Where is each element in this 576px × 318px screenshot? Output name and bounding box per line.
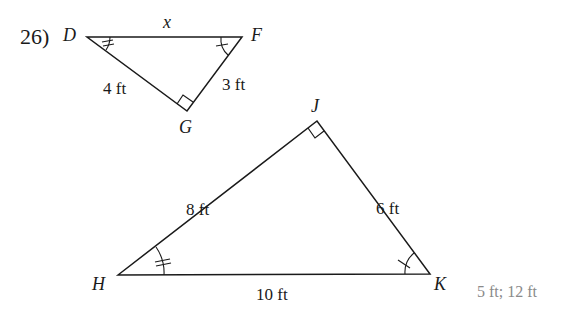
small-triangle: [87, 37, 242, 111]
right-angle-mark-g: [177, 95, 193, 104]
side-jk-label: 6 ft: [376, 199, 399, 218]
vertex-f: F: [250, 25, 263, 45]
vertex-k: K: [433, 274, 447, 294]
angle-arc-k: [405, 253, 414, 274]
right-angle-mark-j: [308, 128, 324, 138]
answer-text: 5 ft; 12 ft: [477, 283, 538, 300]
geometry-problem: 26) D F G x 4 ft 3 ft J H K 8 ft 6 ft 10…: [0, 0, 576, 318]
large-triangle: [118, 121, 430, 275]
vertex-d: D: [62, 25, 76, 45]
triangle-dfg: [87, 37, 242, 111]
side-dg-label: 4 ft: [103, 79, 126, 98]
side-hk-label: 10 ft: [256, 285, 288, 304]
vertex-g: G: [179, 117, 192, 137]
angle-arc-f: [221, 37, 228, 55]
side-hj-label: 8 ft: [186, 200, 209, 219]
triangle-hjk: [118, 121, 430, 275]
angle-arc-d: [106, 37, 110, 50]
vertex-j: J: [311, 96, 320, 116]
vertex-h: H: [91, 274, 106, 294]
problem-number: 26): [20, 24, 49, 49]
side-fg-label: 3 ft: [222, 75, 245, 94]
side-df-label: x: [162, 12, 171, 32]
